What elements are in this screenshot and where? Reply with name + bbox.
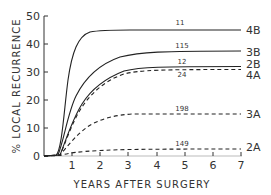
y-tick-label: 0 bbox=[33, 150, 40, 163]
curve-label-3a: 3A bbox=[246, 108, 261, 121]
x-ticks: 1 2 3 4 5 6 7 bbox=[69, 152, 245, 172]
y-tick-label: 30 bbox=[26, 66, 40, 79]
n-label-3b: 115 bbox=[175, 42, 188, 50]
x-tick-label: 1 bbox=[69, 159, 76, 172]
y-tick-label: 40 bbox=[26, 38, 40, 51]
curve-label-4a: 4A bbox=[246, 69, 261, 82]
y-axis-title: % LOCAL RECURRENCE bbox=[11, 19, 22, 154]
y-tick-label: 50 bbox=[26, 10, 40, 23]
x-tick-label: 7 bbox=[238, 159, 245, 172]
y-ticks: 0 10 20 30 40 50 bbox=[26, 10, 48, 163]
n-label-2a: 149 bbox=[175, 140, 188, 148]
y-tick-label: 20 bbox=[26, 94, 40, 107]
n-label-3a: 198 bbox=[175, 105, 188, 113]
curve-label-4b: 4B bbox=[246, 24, 261, 37]
x-tick-label: 2 bbox=[97, 159, 104, 172]
curve-4a bbox=[44, 70, 241, 157]
x-tick-label: 6 bbox=[210, 159, 217, 172]
n-label-4a: 24 bbox=[178, 71, 187, 79]
x-axis-title: YEARS AFTER SURGERY bbox=[73, 179, 211, 190]
x-tick-label: 3 bbox=[125, 159, 132, 172]
curve-2a bbox=[44, 149, 241, 156]
n-label-2b: 12 bbox=[178, 58, 187, 66]
curve-2b bbox=[44, 67, 241, 157]
x-tick-label: 5 bbox=[182, 159, 189, 172]
curve-4b bbox=[44, 30, 241, 156]
n-label-4b: 11 bbox=[176, 19, 185, 27]
recurrence-chart: 0 10 20 30 40 50 1 2 3 4 5 6 7 YEARS AFT… bbox=[0, 0, 271, 195]
curve-label-2a: 2A bbox=[246, 141, 261, 154]
y-tick-label: 10 bbox=[26, 122, 40, 135]
curves bbox=[44, 30, 241, 156]
x-tick-label: 4 bbox=[154, 159, 161, 172]
